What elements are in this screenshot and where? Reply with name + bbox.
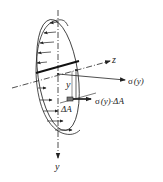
z-axis-label: z [111, 54, 116, 65]
area-element-label: ΔA [60, 104, 72, 114]
force-label: σ(y)·ΔA [95, 96, 124, 106]
sigma-label: σ(y) [128, 76, 144, 86]
area-element [67, 97, 73, 101]
y-distance-label: y [65, 79, 71, 90]
y-axis-label: y [54, 161, 60, 172]
stress-diagram: z y y ΔA σ(y) σ(y)·ΔA [0, 0, 163, 182]
